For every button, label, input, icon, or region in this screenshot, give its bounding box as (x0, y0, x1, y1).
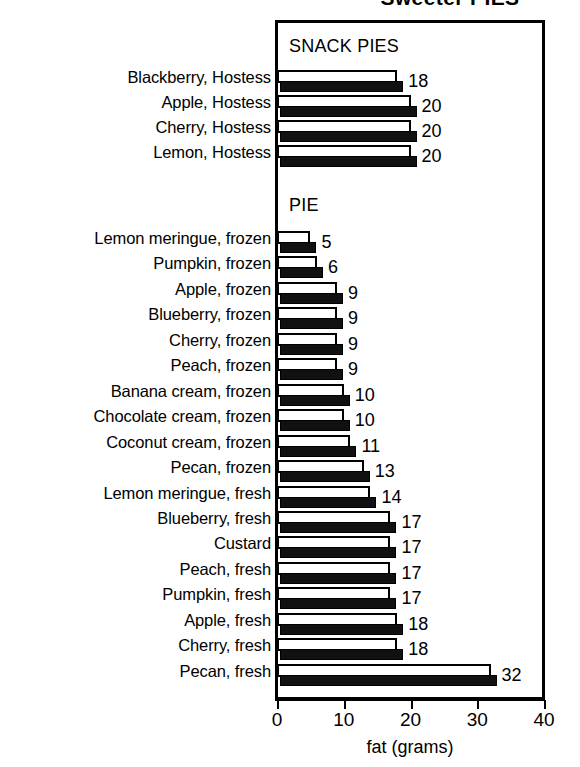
bar-fill (280, 675, 497, 686)
bar-fill (280, 106, 417, 117)
bar-value-label: 10 (355, 385, 375, 406)
bar-fill (280, 420, 350, 431)
bar-fill (280, 293, 343, 304)
bar-fill (280, 267, 323, 278)
x-tick (411, 700, 413, 709)
bar-value-label: 17 (401, 588, 421, 609)
group-caption-pie: PIE (289, 195, 319, 216)
category-label: Lemon, Hostess (0, 143, 271, 162)
bar-fill (280, 522, 396, 533)
bar-value-label: 18 (408, 614, 428, 635)
category-label: Lemon meringue, frozen (0, 229, 271, 248)
bar-value-label: 9 (348, 283, 358, 304)
x-tick (477, 700, 479, 709)
bar-value-label: 9 (348, 334, 358, 355)
category-label: Chocolate cream, frozen (0, 407, 271, 426)
x-tick-label: 20 (391, 709, 431, 731)
category-label: Pecan, frozen (0, 458, 271, 477)
bar-value-label: 11 (361, 436, 380, 457)
x-tick-label: 10 (324, 709, 364, 731)
category-label: Cherry, fresh (0, 636, 271, 655)
bar-value-label: 17 (401, 512, 421, 533)
bar-fill (280, 446, 356, 457)
bar-fill (280, 369, 343, 380)
bar-value-label: 20 (422, 96, 442, 117)
bar-fill (280, 81, 403, 92)
category-label: Cherry, frozen (0, 331, 271, 350)
category-label: Pumpkin, fresh (0, 585, 271, 604)
x-tick (544, 700, 546, 709)
bar-fill (280, 547, 396, 558)
x-tick (344, 700, 346, 709)
bar-value-label: 17 (401, 563, 421, 584)
x-tick-label: 0 (257, 709, 297, 731)
bar-fill (280, 156, 417, 167)
category-label-column: Blackberry, HostessApple, HostessCherry,… (0, 0, 271, 767)
bar-fill (280, 242, 316, 253)
bar-fill (280, 624, 403, 635)
bar-value-label: 18 (408, 639, 428, 660)
bar-fill (280, 344, 343, 355)
category-label: Blueberry, fresh (0, 509, 271, 528)
x-tick (277, 700, 279, 709)
bar-fill (280, 497, 376, 508)
category-label: Apple, fresh (0, 611, 271, 630)
bar-value-label: 17 (401, 537, 421, 558)
category-label: Cherry, Hostess (0, 118, 271, 137)
bar-value-label: 13 (375, 461, 395, 482)
category-label: Banana cream, frozen (0, 382, 271, 401)
category-label: Apple, Hostess (0, 93, 271, 112)
bar-fill (280, 471, 370, 482)
category-label: Pumpkin, frozen (0, 254, 271, 273)
bar-value-label: 9 (348, 359, 358, 380)
group-caption-snack-pies: SNACK PIES (289, 36, 399, 57)
x-axis-title: fat (grams) (275, 737, 545, 758)
bar-value-label: 20 (422, 121, 442, 142)
category-label: Pecan, fresh (0, 662, 271, 681)
category-label: Blackberry, Hostess (0, 68, 271, 87)
bar-fill (280, 573, 396, 584)
category-label: Custard (0, 534, 271, 553)
category-label: Lemon meringue, fresh (0, 484, 271, 503)
category-label: Apple, frozen (0, 280, 271, 299)
bar-value-label: 6 (328, 257, 338, 278)
bar-fill (280, 598, 396, 609)
bar-value-label: 14 (381, 487, 401, 508)
x-tick-label: 30 (457, 709, 497, 731)
bar-value-label: 10 (355, 410, 375, 431)
chart-title: Sweeter PIES (330, 0, 570, 6)
category-label: Blueberry, frozen (0, 305, 271, 324)
category-label: Peach, frozen (0, 356, 271, 375)
bar-fill (280, 649, 403, 660)
category-label: Peach, fresh (0, 560, 271, 579)
bar-fill (280, 131, 417, 142)
bar-value-label: 32 (502, 665, 522, 686)
bar-value-label: 20 (422, 146, 442, 167)
bar-value-label: 9 (348, 308, 358, 329)
bar-value-label: 18 (408, 71, 428, 92)
chart-root: Sweeter PIES Blackberry, HostessApple, H… (0, 0, 580, 767)
x-tick-label: 40 (524, 709, 564, 731)
bar-fill (280, 395, 350, 406)
category-label: Coconut cream, frozen (0, 433, 271, 452)
bar-fill (280, 318, 343, 329)
bar-value-label: 5 (321, 232, 331, 253)
